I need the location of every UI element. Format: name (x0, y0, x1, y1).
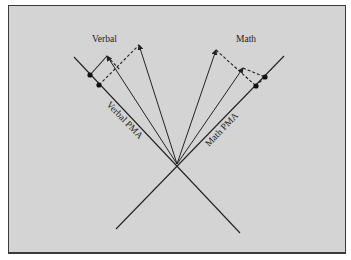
verbal-title: Verbal (92, 34, 117, 44)
math-proj-point-2 (253, 83, 258, 88)
math-axis-label: Math PMA (203, 110, 240, 148)
math-projections (216, 50, 265, 86)
factor-diagram: Verbal Math Verbal PMA Math PMA (0, 0, 351, 260)
math-pma-axis (116, 56, 284, 229)
verbal-proj-point-2 (96, 82, 101, 87)
verbal-projections (90, 45, 139, 85)
verbal-proj-point-1 (87, 72, 92, 77)
math-title: Math (236, 34, 256, 44)
math-proj-point-1 (262, 74, 267, 79)
